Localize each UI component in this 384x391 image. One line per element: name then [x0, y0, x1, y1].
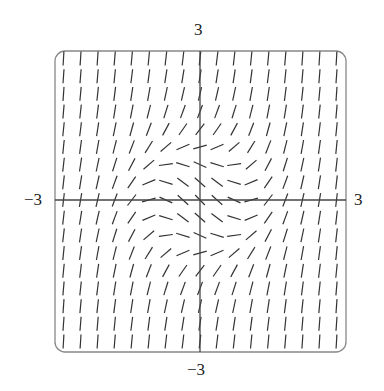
- slope-segment: [266, 264, 270, 278]
- slope-segment: [97, 122, 99, 136]
- slope-segment: [129, 140, 134, 153]
- slope-segment: [319, 299, 320, 313]
- slope-segment: [301, 246, 304, 260]
- slope-segment: [336, 335, 337, 349]
- slope-segment: [336, 228, 338, 242]
- slope-segment: [319, 317, 320, 331]
- slope-segment: [165, 335, 167, 349]
- slope-segment: [80, 175, 82, 189]
- slope-segment: [266, 140, 271, 153]
- slope-segment: [181, 105, 186, 118]
- slope-segment: [302, 69, 303, 83]
- slope-segment: [163, 265, 170, 277]
- slope-segment: [176, 163, 189, 167]
- slope-segment: [97, 317, 98, 331]
- slope-segment: [284, 264, 287, 278]
- slope-segment: [318, 229, 320, 243]
- slope-segment: [233, 317, 235, 331]
- slope-segment: [130, 282, 133, 296]
- slope-segment: [96, 246, 99, 260]
- slope-segment: [96, 229, 99, 243]
- slope-segment: [250, 105, 253, 119]
- slope-segment: [285, 335, 286, 349]
- slope-segment: [113, 122, 116, 136]
- slope-segment: [302, 105, 304, 119]
- slope-segment: [285, 52, 286, 66]
- slope-segment: [336, 299, 337, 313]
- slope-segment: [131, 335, 132, 349]
- slope-segment: [179, 265, 187, 277]
- x-min-label: −3: [24, 190, 42, 210]
- slope-segment: [336, 69, 337, 83]
- slope-segment: [148, 52, 149, 66]
- slope-segment: [177, 144, 190, 150]
- slope-segment: [319, 105, 321, 119]
- slope-segment: [80, 105, 82, 119]
- slope-segment: [63, 211, 65, 225]
- slope-segment: [114, 105, 116, 119]
- slope-segment: [283, 176, 288, 189]
- slope-segment: [165, 317, 167, 331]
- slope-segment: [131, 69, 133, 83]
- slope-field-plot: [0, 0, 384, 391]
- slope-segment: [161, 249, 172, 258]
- slope-segment: [80, 122, 82, 136]
- slope-segment: [63, 299, 64, 313]
- slope-segment: [302, 282, 304, 296]
- slope-segment: [114, 87, 116, 101]
- slope-segment: [284, 282, 286, 296]
- slope-segment: [142, 215, 155, 220]
- slope-segment: [319, 282, 321, 296]
- slope-segment: [97, 335, 98, 349]
- slope-segment: [284, 122, 287, 136]
- slope-segment: [114, 282, 116, 296]
- slope-segment: [227, 164, 241, 166]
- slope-segment: [63, 52, 64, 66]
- slope-segment: [131, 87, 133, 101]
- slope-segment: [265, 158, 272, 170]
- slope-segment: [148, 87, 151, 101]
- slope-segment: [142, 180, 155, 185]
- slope-segment: [112, 176, 117, 189]
- slope-segment: [319, 52, 320, 66]
- y-max-label: 3: [194, 20, 203, 40]
- slope-segment: [148, 335, 149, 349]
- slope-segment: [63, 228, 65, 242]
- slope-segment: [245, 180, 258, 185]
- slope-segment: [251, 335, 252, 349]
- slope-segment: [161, 142, 172, 151]
- slope-segment: [97, 105, 99, 119]
- slope-segment: [144, 160, 155, 169]
- slope-segment: [336, 140, 337, 154]
- slope-segment: [267, 69, 269, 83]
- slope-segment: [148, 69, 150, 83]
- slope-segment: [177, 214, 188, 222]
- slope-segment: [181, 87, 184, 101]
- slope-segment: [285, 69, 286, 83]
- slope-segment: [164, 105, 168, 118]
- slope-segment: [80, 229, 82, 243]
- slope-segment: [165, 52, 167, 66]
- slope-segment: [163, 123, 170, 135]
- slope-segment: [319, 264, 321, 278]
- slope-segment: [176, 233, 189, 237]
- slope-segment: [284, 87, 286, 101]
- slope-segment: [231, 123, 238, 135]
- slope-segment: [216, 299, 219, 313]
- slope-segment: [336, 52, 337, 66]
- slope-segment: [96, 140, 99, 154]
- slope-segment: [301, 140, 304, 154]
- slope-segment: [283, 211, 288, 224]
- slope-segment: [164, 299, 167, 313]
- slope-segment: [164, 87, 167, 101]
- slope-segment: [248, 141, 255, 153]
- slope-segment: [165, 69, 167, 83]
- slope-segment: [80, 282, 82, 296]
- slope-segment: [114, 52, 115, 66]
- slope-segment: [97, 52, 98, 66]
- slope-segment: [181, 299, 184, 313]
- slope-segment: [211, 178, 222, 186]
- slope-segment: [148, 299, 151, 313]
- slope-segment: [159, 216, 172, 220]
- slope-segment: [80, 52, 81, 66]
